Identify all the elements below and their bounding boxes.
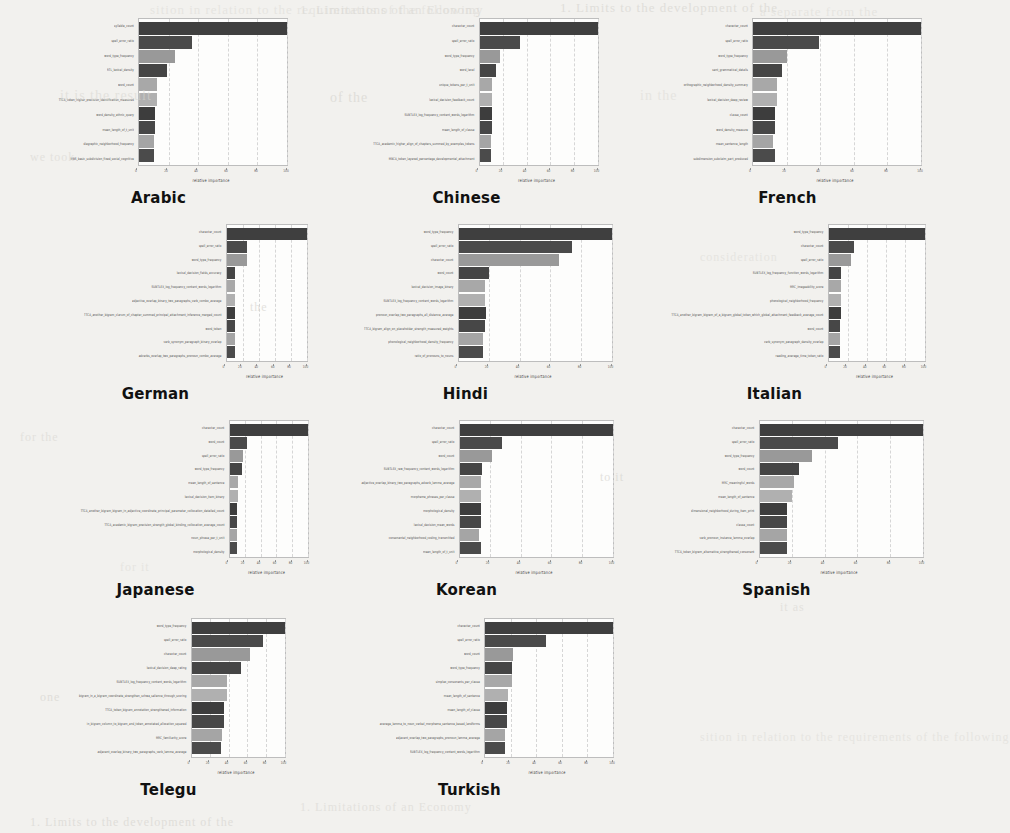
bar bbox=[227, 241, 248, 253]
bar-series bbox=[459, 225, 612, 361]
bar-series bbox=[829, 225, 925, 361]
y-axis-tick-label: morphological_density bbox=[193, 544, 224, 563]
x-axis-label: relative importance bbox=[457, 570, 612, 575]
x-gridline bbox=[613, 421, 614, 557]
y-axis-tick-label: MBCA_token_layered_percentage_developmen… bbox=[389, 151, 475, 171]
bar-row bbox=[760, 529, 923, 542]
plot-area: word_type_frequencyspell_error_ratiochar… bbox=[52, 618, 286, 762]
x-tick-label: 20 bbox=[238, 366, 242, 370]
x-axis-label: relative importance bbox=[136, 178, 286, 183]
chart-panel-japanese: character_countword_countspell_error_rat… bbox=[0, 416, 309, 612]
x-gridline bbox=[285, 619, 286, 757]
bar-row bbox=[753, 78, 921, 92]
bar-row bbox=[459, 306, 612, 319]
bar-row bbox=[192, 742, 285, 755]
bar-row bbox=[459, 280, 612, 293]
bar-row bbox=[760, 476, 923, 489]
x-axis-label: relative importance bbox=[477, 178, 597, 183]
bar-row bbox=[460, 436, 613, 449]
bar bbox=[227, 228, 307, 240]
x-tick-label: 20 bbox=[206, 762, 210, 766]
bar-row bbox=[829, 280, 925, 293]
bar bbox=[230, 463, 242, 475]
bar-row bbox=[460, 423, 613, 436]
bar-row bbox=[459, 267, 612, 280]
bar bbox=[459, 333, 483, 345]
bar-row bbox=[459, 319, 612, 332]
bar-row bbox=[227, 267, 307, 280]
bar-row bbox=[480, 78, 598, 92]
bar bbox=[230, 516, 238, 528]
chart-panel-hindi: word_type_frequencyspell_error_ratiochar… bbox=[309, 220, 618, 416]
x-tick-label: 40 bbox=[523, 170, 527, 174]
bar-row bbox=[480, 35, 598, 49]
y-axis-tick-label: TTCA_token_bigram_alternative_strengthen… bbox=[675, 544, 755, 563]
bar-series bbox=[139, 19, 287, 165]
bar bbox=[192, 729, 223, 741]
x-tick-label: 0 bbox=[456, 562, 458, 566]
x-axis-ticks: 020406080100 bbox=[189, 762, 284, 770]
bar bbox=[459, 267, 490, 279]
chart-panel-arabic: syllable_countspell_error_ratioword_type… bbox=[0, 0, 309, 220]
plot-axes bbox=[459, 420, 614, 558]
x-axis-label: relative importance bbox=[826, 374, 924, 379]
bar-row bbox=[829, 240, 925, 253]
bar-row bbox=[829, 293, 925, 306]
panel-title-chinese: Chinese bbox=[315, 189, 618, 207]
x-tick-label: 60 bbox=[883, 366, 887, 370]
plot-area: character_countspell_error_ratioword_typ… bbox=[653, 18, 922, 170]
bar bbox=[480, 107, 493, 120]
bar bbox=[753, 36, 819, 49]
bar bbox=[139, 107, 155, 120]
bar-row bbox=[230, 476, 308, 489]
x-tick-label: 20 bbox=[485, 366, 489, 370]
bar bbox=[753, 149, 775, 162]
bar-row bbox=[230, 436, 308, 449]
bar-row bbox=[753, 49, 921, 63]
bar-series bbox=[753, 19, 921, 165]
bar bbox=[139, 64, 167, 77]
bar bbox=[485, 675, 512, 687]
bar bbox=[753, 121, 775, 134]
bar bbox=[192, 689, 227, 701]
bar bbox=[753, 93, 777, 106]
x-tick-label: 100 bbox=[303, 366, 308, 370]
bar-row bbox=[753, 35, 921, 49]
x-tick-label: 0 bbox=[476, 170, 478, 174]
bar-row bbox=[480, 120, 598, 134]
x-tick-label: 80 bbox=[578, 366, 582, 370]
bar-row bbox=[760, 436, 923, 449]
bar bbox=[485, 662, 512, 674]
bar bbox=[459, 346, 483, 358]
y-axis-labels: character_countspell_error_ratioword_cou… bbox=[320, 420, 459, 562]
x-tick-label: 100 bbox=[609, 562, 614, 566]
bar-row bbox=[139, 149, 287, 163]
x-gridline bbox=[598, 19, 599, 165]
x-tick-label: 0 bbox=[756, 562, 758, 566]
plot-axes bbox=[191, 618, 286, 758]
bar bbox=[192, 702, 225, 714]
bar bbox=[460, 424, 613, 436]
bar bbox=[480, 64, 497, 77]
bar-row bbox=[459, 293, 612, 306]
bar bbox=[230, 437, 247, 449]
bar-row bbox=[753, 106, 921, 120]
x-tick-label: 0 bbox=[223, 366, 225, 370]
bar-row bbox=[485, 621, 613, 634]
bar bbox=[227, 280, 236, 292]
bar-row bbox=[227, 346, 307, 359]
bar bbox=[227, 320, 236, 332]
bar bbox=[459, 320, 485, 332]
bar bbox=[192, 648, 251, 660]
bar bbox=[829, 267, 841, 279]
bar bbox=[829, 307, 841, 319]
panel-title-korean: Korean bbox=[315, 581, 618, 599]
bar bbox=[753, 64, 782, 77]
x-tick-label: 60 bbox=[224, 170, 228, 174]
bar bbox=[753, 78, 777, 91]
panel-title-telegu: Telegu bbox=[28, 781, 309, 799]
bar bbox=[459, 241, 572, 253]
bar-row bbox=[485, 742, 613, 755]
bar-row bbox=[230, 515, 308, 528]
y-axis-tick-label: MBS_basic_subdivision_fixed_social_cogni… bbox=[71, 151, 134, 171]
